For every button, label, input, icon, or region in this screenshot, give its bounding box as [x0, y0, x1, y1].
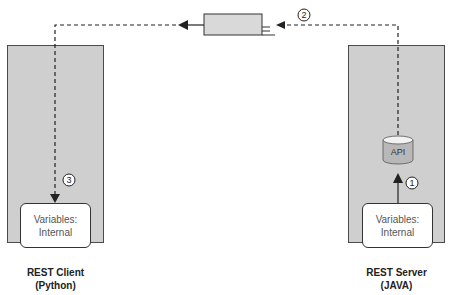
api-label: API	[391, 147, 406, 157]
svg-text:3: 3	[66, 175, 71, 185]
arrowhead-into-message	[276, 21, 285, 29]
message-to-client-connector	[55, 25, 176, 194]
message-packet-icon	[204, 14, 275, 35]
step-3-badge: 3	[63, 174, 75, 186]
arrowhead-out-of-message	[178, 20, 188, 30]
svg-text:1: 1	[409, 178, 414, 188]
arrowhead-into-api	[393, 173, 403, 183]
svg-text:2: 2	[301, 10, 306, 20]
step-2-badge: 2	[298, 9, 310, 21]
diagram-connectors: API 1 2 3	[0, 0, 450, 295]
api-database-icon: API	[383, 136, 413, 164]
step-1-badge: 1	[406, 177, 418, 189]
arrowhead-into-client	[50, 194, 60, 203]
server-to-message-connector	[283, 25, 398, 163]
